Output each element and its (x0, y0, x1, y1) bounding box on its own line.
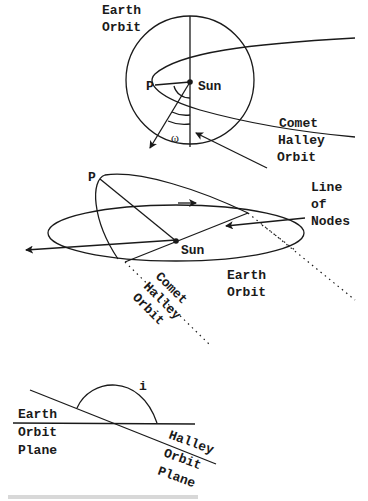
earth-orbit-label-top-2: Orbit (102, 20, 141, 35)
direction-arrow-left (26, 240, 176, 250)
earth-plane-label-2: Orbit (18, 425, 57, 440)
earth-plane-label-3: Plane (18, 443, 57, 458)
inclination-label: i (139, 379, 147, 394)
earth-plane-label-1: Earth (18, 407, 57, 422)
comet-label-top-2: Halley (278, 133, 325, 148)
line-of-nodes-label-1: Line (311, 180, 342, 195)
earth-orbit-label-top: Earth (102, 3, 141, 18)
earth-orbit-label-perspective-2: Orbit (227, 285, 266, 300)
omega-label: ω (171, 131, 179, 145)
earth-orbit-ellipse (48, 205, 304, 261)
comet-orbit-perspective (96, 174, 248, 259)
line-of-nodes-label-2: of (311, 197, 327, 212)
sun-label-perspective: Sun (181, 243, 205, 258)
line-of-nodes-label-3: Nodes (311, 214, 350, 229)
earth-orbit-label-perspective-1: Earth (227, 268, 266, 283)
inclination-view: i Earth Orbit Plane Halley Orbit Plane (13, 379, 216, 491)
perspective-view: P Sun Earth Orbit Comet Halley Orbit (26, 170, 355, 345)
comet-label-top-3: Orbit (277, 150, 316, 165)
sun-label-top: Sun (198, 79, 222, 94)
perihelion-label-top: P (146, 79, 154, 94)
comet-halley-orbit-diagram: Earth Orbit P Sun ω Comet Halley Orbit L… (0, 0, 368, 501)
comet-label-top-1: Comet (279, 116, 318, 131)
truncated-caption (8, 495, 198, 499)
perihelion-line-perspective (100, 179, 176, 241)
earth-orbit-plane-line (13, 423, 195, 424)
angle-arc-inner (174, 86, 190, 98)
line-of-nodes-pointer-top (196, 133, 267, 168)
angle-arc-omega-2 (172, 112, 190, 115)
top-view: Earth Orbit P Sun ω Comet Halley Orbit L… (102, 3, 355, 229)
perihelion-line-top (155, 82, 190, 85)
perihelion-label-perspective: P (88, 170, 96, 185)
angle-arc-omega (168, 121, 190, 124)
